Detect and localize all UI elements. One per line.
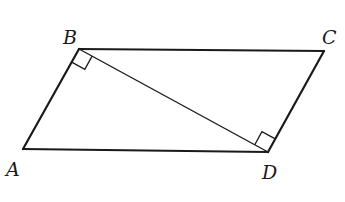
- side-cd: [268, 51, 324, 152]
- vertex-label-c: C: [322, 26, 337, 48]
- vertex-label-a: A: [4, 158, 20, 180]
- vertex-label-d: D: [261, 161, 277, 183]
- side-bc: [79, 49, 324, 51]
- vertex-label-b: B: [62, 26, 77, 48]
- parallelogram-diagram: B C A D: [0, 0, 345, 202]
- diagonal-bd: [79, 49, 268, 152]
- side-ab: [23, 49, 79, 149]
- side-da: [23, 149, 268, 152]
